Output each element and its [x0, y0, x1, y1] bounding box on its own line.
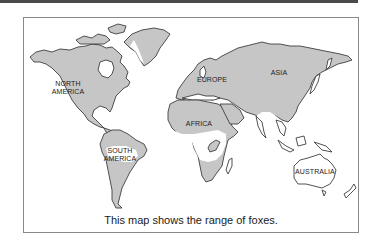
label-asia: ASIA — [264, 69, 294, 77]
indonesia — [278, 140, 294, 152]
south-america-shape — [100, 130, 147, 208]
label-australia: AUSTRALIA — [294, 168, 336, 176]
baffin-island — [108, 24, 126, 34]
label-south-america-line2: AMERICA — [100, 155, 140, 163]
indochina — [276, 120, 286, 136]
tasmania — [322, 190, 326, 196]
greenland-shape — [124, 28, 170, 66]
label-south-america-line1: SOUTH — [100, 147, 140, 155]
arctic-islands — [76, 34, 110, 44]
label-north-america-line1: NORTH — [48, 80, 88, 88]
label-south-america: SOUTH AMERICA — [100, 147, 140, 163]
label-europe: EUROPE — [194, 76, 230, 84]
borneo — [296, 136, 306, 146]
label-africa: AFRICA — [182, 120, 216, 128]
madagascar — [226, 158, 232, 174]
new-guinea — [314, 142, 332, 152]
label-north-america-line2: AMERICA — [48, 88, 88, 96]
label-north-america: NORTH AMERICA — [48, 80, 88, 96]
new-zealand — [344, 184, 356, 198]
map-caption: This map shows the range of foxes. — [23, 214, 359, 226]
